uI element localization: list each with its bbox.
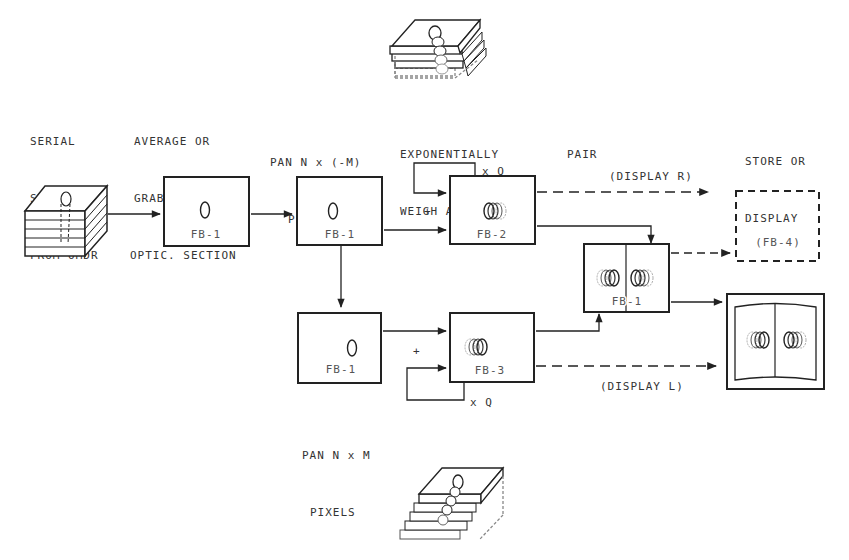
serial-section-stack-icon: [25, 186, 107, 256]
box-pair-fb1: FB-1: [584, 244, 669, 312]
pipeline-diagram: FB-1 FB-1 x Q + FB-2 (DISPLAY R) (FB-4) …: [0, 0, 849, 560]
box-store-fb4: (FB-4): [736, 191, 819, 261]
box-label: FB-1: [612, 295, 643, 308]
plus-sign-top: +: [424, 205, 432, 218]
box-sum-fb2: FB-2: [450, 176, 535, 244]
plus-sign-bottom: +: [413, 345, 421, 358]
display-l-label: (DISPLAY L): [600, 380, 684, 393]
left-stack-icon: [400, 468, 503, 539]
box-label: (FB-4): [755, 236, 801, 249]
right-stack-icon: [390, 20, 486, 78]
stereo-monitor-icon: [727, 294, 824, 389]
arrow-fb2-to-pair: [537, 226, 651, 243]
arrow-fb3-to-pair: [536, 314, 599, 331]
box-sum-fb3: FB-3: [450, 313, 534, 382]
feedback-multiplier-bottom: x Q: [470, 396, 493, 409]
box-label: FB-2: [477, 228, 508, 241]
box-label: FB-1: [325, 228, 356, 241]
box-pan-neg-fb1: FB-1: [297, 177, 382, 245]
box-label: FB-1: [326, 363, 357, 376]
display-r-label: (DISPLAY R): [609, 170, 693, 183]
box-pan-pos-fb1: FB-1: [298, 313, 381, 383]
box-average-fb1: FB-1: [164, 177, 249, 246]
box-label: FB-1: [191, 228, 222, 241]
box-label: FB-3: [475, 364, 506, 377]
